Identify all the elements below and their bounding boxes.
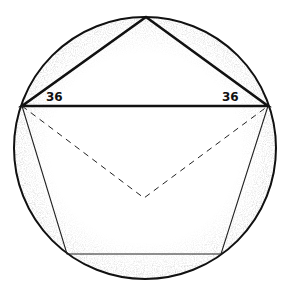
left-angle-label: 36 — [46, 90, 63, 104]
right-angle-label: 36 — [222, 90, 239, 104]
pentagon-circle-diagram: 36 36 — [0, 0, 288, 296]
rim-shading — [14, 17, 276, 279]
